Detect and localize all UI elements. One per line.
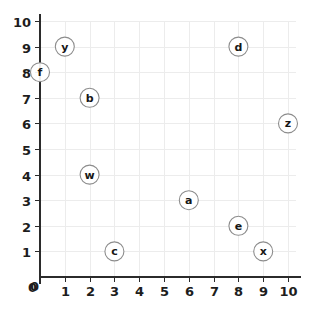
y-tick-label: 8 (22, 66, 31, 81)
y-tick-label: 7 (22, 92, 31, 107)
y-tick-label: 3 (22, 194, 31, 209)
plot-canvas: 012345678910 012345678910 yfbwcdzaex (0, 0, 310, 320)
data-point-marker[interactable]: z (279, 114, 298, 133)
data-point-marker[interactable]: w (80, 165, 99, 184)
x-axis-ticks: 012345678910 (30, 277, 298, 299)
data-point-marker[interactable]: x (254, 242, 273, 261)
x-tick-label: 6 (185, 284, 194, 299)
x-tick-label: 1 (61, 284, 70, 299)
marker-label: f (38, 66, 43, 79)
marker-label: z (285, 117, 291, 130)
marker-label: x (260, 245, 267, 258)
y-tick-label: 6 (22, 117, 31, 132)
marker-label: w (85, 169, 95, 182)
x-tick-label: 4 (135, 284, 144, 299)
y-tick-label: 1 (22, 245, 31, 260)
gridlines-group (40, 21, 296, 277)
y-tick-label: 10 (13, 15, 31, 30)
marker-label: e (235, 220, 242, 233)
data-point-marker[interactable]: e (229, 216, 248, 235)
data-point-marker[interactable]: d (229, 37, 248, 56)
data-point-marker[interactable]: c (105, 242, 124, 261)
y-axis-ticks: 012345678910 (13, 15, 40, 295)
y-tick-label: 5 (22, 143, 31, 158)
y-tick-label: 0 (28, 280, 37, 295)
data-point-marker[interactable]: a (179, 191, 198, 210)
x-tick-label: 7 (210, 284, 219, 299)
x-tick-label: 8 (234, 284, 243, 299)
data-point-marker[interactable]: f (31, 63, 50, 82)
data-point-marker[interactable]: y (55, 37, 74, 56)
data-point-marker[interactable]: b (80, 88, 99, 107)
marker-label: c (111, 245, 118, 258)
x-tick-label: 9 (259, 284, 268, 299)
x-tick-label: 10 (279, 284, 297, 299)
y-tick-label: 2 (22, 220, 31, 235)
marker-label: a (185, 194, 192, 207)
marker-label: b (86, 92, 94, 105)
marker-label: y (61, 41, 68, 54)
x-tick-label: 3 (110, 284, 119, 299)
y-tick-label: 9 (22, 41, 31, 56)
x-tick-label: 5 (160, 284, 169, 299)
y-tick-label: 4 (22, 169, 31, 184)
scatter-plot-figure: 012345678910 012345678910 yfbwcdzaex (0, 0, 310, 320)
marker-label: d (234, 41, 242, 54)
x-tick-label: 2 (86, 284, 95, 299)
